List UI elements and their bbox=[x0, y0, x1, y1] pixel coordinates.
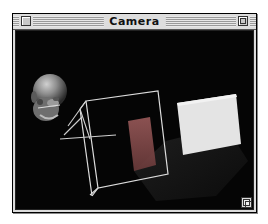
camera-rays bbox=[60, 101, 116, 139]
scene-viewport[interactable] bbox=[15, 30, 254, 210]
title-wrap: Camera bbox=[103, 14, 165, 29]
camera-window: Camera bbox=[12, 13, 257, 213]
close-box-icon[interactable] bbox=[21, 16, 31, 26]
grow-box-icon[interactable] bbox=[241, 197, 252, 208]
zoom-box-icon[interactable] bbox=[238, 16, 248, 26]
inner-red-plane bbox=[128, 117, 156, 171]
window-title: Camera bbox=[109, 14, 159, 29]
title-bar[interactable]: Camera bbox=[13, 14, 256, 30]
head-model bbox=[31, 74, 67, 121]
scene-canvas[interactable] bbox=[16, 31, 254, 210]
